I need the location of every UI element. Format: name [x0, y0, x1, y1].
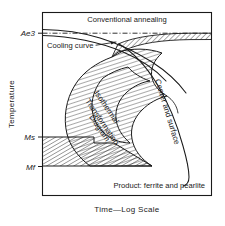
annotation-product: Product: ferrite and pearlite: [113, 181, 205, 190]
annotation-cooling-curve: Cooling curve: [47, 41, 93, 50]
y-tick-label-ae3: Ae3: [20, 29, 36, 38]
y-tick-label-ms: Ms: [24, 133, 35, 142]
y-axis-title: Temperature: [7, 80, 16, 128]
figure-canvas: Ae3 Ms Mf Temperature Time—Log Scale Con…: [0, 0, 225, 226]
y-tick-label-mf: Mf: [26, 163, 36, 172]
annotation-conventional-annealing: Conventional annealing: [87, 15, 166, 24]
ttt-diagram-figure: Ae3 Ms Mf Temperature Time—Log Scale Con…: [0, 0, 225, 226]
x-axis-title: Time—Log Scale: [94, 205, 160, 214]
